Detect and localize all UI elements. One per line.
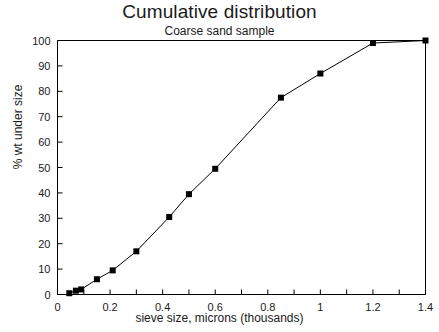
svg-text:90: 90 [38, 60, 50, 72]
svg-text:1.2: 1.2 [365, 301, 380, 313]
svg-text:60: 60 [38, 136, 50, 148]
svg-text:0.8: 0.8 [260, 301, 275, 313]
tick-marks [58, 41, 426, 295]
svg-text:0.6: 0.6 [208, 301, 223, 313]
svg-text:50: 50 [38, 162, 50, 174]
svg-text:40: 40 [38, 187, 50, 199]
svg-text:70: 70 [38, 111, 50, 123]
axes [58, 41, 426, 295]
chart-container: Cumulative distribution Coarse sand samp… [0, 0, 439, 332]
svg-text:30: 30 [38, 212, 50, 224]
svg-text:80: 80 [38, 85, 50, 97]
svg-text:0: 0 [54, 301, 60, 313]
plot-area: 010203040506070809010000.20.40.60.811.21… [0, 0, 439, 332]
svg-text:1.4: 1.4 [418, 301, 433, 313]
data-series-line [69, 41, 425, 294]
svg-text:1: 1 [317, 301, 323, 313]
svg-text:0.4: 0.4 [155, 301, 170, 313]
tick-labels: 010203040506070809010000.20.40.60.811.21… [32, 35, 433, 313]
svg-text:100: 100 [32, 35, 50, 47]
svg-text:0: 0 [44, 289, 50, 301]
svg-text:0.2: 0.2 [102, 301, 117, 313]
svg-text:20: 20 [38, 238, 50, 250]
data-point-markers [66, 38, 428, 297]
svg-text:10: 10 [38, 263, 50, 275]
